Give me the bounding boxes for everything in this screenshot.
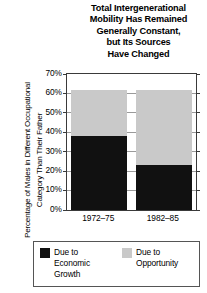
y-axis-tick-mark bbox=[63, 93, 67, 94]
y-axis-tick-label: 0% bbox=[36, 205, 62, 213]
x-axis-tick-label: 1972–75 bbox=[62, 214, 134, 223]
legend-item[interactable]: Due to Economic Growth bbox=[40, 247, 90, 281]
y-axis-tick-label: 10% bbox=[36, 185, 62, 193]
bar-segment[interactable] bbox=[71, 90, 127, 137]
bar-segment[interactable] bbox=[71, 136, 127, 210]
y-axis-tick-mark bbox=[63, 74, 67, 75]
y-axis-tick-label: 70% bbox=[36, 69, 62, 77]
y-axis-tick-labels: 0%10%20%30%40%50%60%70% bbox=[36, 73, 62, 211]
legend-label: Due to Opportunity bbox=[136, 247, 178, 269]
y-axis-tick-mark-right bbox=[196, 93, 200, 94]
y-axis-tick-mark-right bbox=[196, 112, 200, 113]
y-axis-tick-mark bbox=[63, 190, 67, 191]
legend-item[interactable]: Due to Opportunity bbox=[122, 247, 178, 269]
chart-title: Total Intergenerational Mobility Has Rem… bbox=[72, 3, 205, 60]
y-axis-tick-mark-right bbox=[196, 74, 200, 75]
y-axis-tick-label: 50% bbox=[36, 108, 62, 116]
y-axis-tick-mark bbox=[63, 132, 67, 133]
y-axis-tick-mark bbox=[63, 151, 67, 152]
y-axis-title: Percentage of Males in Different Occupat… bbox=[0, 48, 30, 240]
y-axis-tick-mark-right bbox=[196, 190, 200, 191]
y-axis-tick-mark-right bbox=[196, 151, 200, 152]
bar-segment[interactable] bbox=[136, 90, 192, 166]
legend-swatch bbox=[40, 248, 50, 258]
legend-swatch bbox=[122, 248, 132, 258]
y-axis-tick-label: 40% bbox=[36, 127, 62, 135]
y-axis-tick-mark-right bbox=[196, 210, 200, 211]
y-axis-tick-label: 60% bbox=[36, 88, 62, 96]
bar-segment[interactable] bbox=[136, 165, 192, 210]
bar-column[interactable] bbox=[71, 74, 127, 210]
bar-column[interactable] bbox=[136, 74, 192, 210]
y-axis-tick-label: 20% bbox=[36, 166, 62, 174]
legend-label: Due to Economic Growth bbox=[54, 247, 90, 281]
x-axis-tick-label: 1982–85 bbox=[127, 214, 199, 223]
y-axis-tick-mark bbox=[63, 210, 67, 211]
y-axis-tick-mark bbox=[63, 171, 67, 172]
y-axis-tick-mark-right bbox=[196, 132, 200, 133]
chart-legend: Due to Economic GrowthDue to Opportunity bbox=[33, 241, 200, 287]
y-axis-tick-mark bbox=[63, 112, 67, 113]
y-axis-tick-mark-right bbox=[196, 171, 200, 172]
plot-area bbox=[66, 73, 197, 211]
chart-container: Total Intergenerational Mobility Has Rem… bbox=[0, 0, 207, 293]
y-axis-tick-label: 30% bbox=[36, 147, 62, 155]
